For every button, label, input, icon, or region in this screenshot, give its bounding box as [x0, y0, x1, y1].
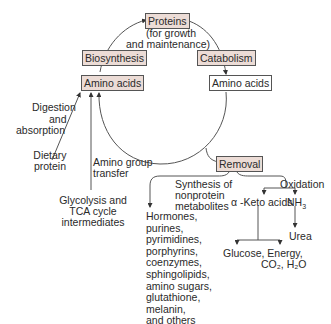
metabolite-item: glutathione, [146, 292, 212, 304]
nh3-label: NH3 [287, 196, 306, 213]
protein-label: protein [28, 160, 72, 172]
amino-acids-right-label: Amino acids [212, 77, 269, 89]
amino-acids-right-node: Amino acids [209, 75, 272, 91]
metabolite-item: Hormones, [146, 211, 212, 223]
co2-h2o-label: CO₂, H₂O [261, 258, 307, 270]
digestion-label: Digestion [32, 101, 76, 113]
amino-group-transfer-label-2: transfer [93, 167, 129, 179]
amino-acids-left-node: Amino acids [81, 75, 144, 91]
metabolite-item: sphingolipids, [146, 269, 212, 281]
proteins-label: Proteins [148, 15, 187, 27]
removal-label: Removal [219, 158, 260, 170]
keto-acids-label: α -Keto acids [231, 196, 293, 208]
absorption-label: absorption [16, 124, 65, 136]
oxidation-label: Oxidation [280, 178, 324, 190]
removal-node: Removal [216, 156, 263, 172]
biosynthesis-node: Biosynthesis [82, 50, 147, 66]
proteins-note-2: and maintenance) [122, 38, 214, 50]
metabolites-list: Hormones, purines, pyrimidines, porphyri… [146, 211, 212, 324]
amino-acids-left-label: Amino acids [84, 77, 141, 89]
glycolysis-label-3: intermediates [58, 216, 128, 228]
metabolite-item: and others [146, 315, 212, 324]
urea-label: Urea [289, 230, 312, 242]
biosynthesis-label: Biosynthesis [85, 52, 144, 64]
catabolism-label: Catabolism [200, 52, 253, 64]
catabolism-node: Catabolism [197, 50, 256, 66]
nh3-text: NH [287, 196, 302, 208]
nh3-subscript: 3 [302, 203, 306, 210]
